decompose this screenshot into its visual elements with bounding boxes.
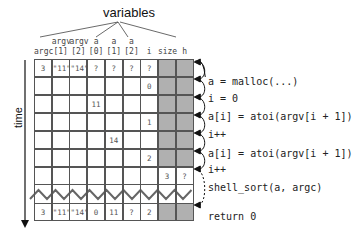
grid-cell: ?	[123, 59, 141, 77]
grid-cell	[105, 113, 123, 131]
grid-cell	[105, 167, 123, 185]
grid-cell	[34, 131, 52, 149]
statement-label: a[i] = atoi(argv[i + 1])	[208, 111, 353, 122]
grid-cell	[123, 131, 141, 149]
grid-cell	[158, 95, 176, 113]
grid-cell	[123, 113, 141, 131]
grid-cell	[158, 113, 176, 131]
grid-cell	[140, 95, 158, 113]
grid-cell: 1	[140, 113, 158, 131]
grid-cell: 0	[87, 203, 105, 221]
statement-label: i++	[208, 164, 226, 175]
grid-cell	[123, 95, 141, 113]
grid-gap	[52, 185, 70, 203]
grid-gap	[158, 185, 176, 203]
grid-gap	[123, 185, 141, 203]
grid-cell: 3	[34, 203, 52, 221]
grid-cell	[52, 77, 70, 95]
grid-cell	[158, 59, 176, 77]
grid-cell	[123, 77, 141, 95]
grid-cell: 3	[158, 167, 176, 185]
grid-cell: 2	[140, 149, 158, 167]
grid-gap	[105, 185, 123, 203]
column-header-top: a	[123, 37, 141, 46]
column-header-bottom: size	[158, 47, 176, 56]
grid-cell	[158, 77, 176, 95]
grid-cell	[69, 95, 87, 113]
grid-cell: ?	[87, 59, 105, 77]
grid-cell: "11"	[52, 203, 70, 221]
column-header-bottom: h	[176, 47, 194, 56]
grid-cell	[176, 149, 194, 167]
grid-cell	[52, 131, 70, 149]
column-header-top: argv	[69, 37, 87, 46]
column-header-top: argv	[52, 37, 70, 46]
grid-cell	[105, 95, 123, 113]
grid-cell	[176, 95, 194, 113]
grid-cell: 14	[105, 131, 123, 149]
grid-cell	[105, 149, 123, 167]
column-header-bottom: [2]	[123, 47, 141, 56]
column-header-top: a	[87, 37, 105, 46]
grid-cell	[69, 149, 87, 167]
grid-cell: ?	[105, 59, 123, 77]
grid-cell	[176, 77, 194, 95]
grid-cell	[158, 149, 176, 167]
grid-cell: 11	[105, 203, 123, 221]
grid-gap	[69, 185, 87, 203]
column-header-top: a	[105, 37, 123, 46]
column-header-bottom: argc	[34, 47, 52, 56]
grid-cell	[34, 77, 52, 95]
grid-cell	[176, 203, 194, 221]
grid-cell: "14"	[69, 203, 87, 221]
grid-cell	[176, 131, 194, 149]
grid-cell	[52, 95, 70, 113]
statement-label: a[i] = atoi(argv[i + 1])	[208, 148, 353, 159]
grid-cell	[176, 113, 194, 131]
grid-cell	[140, 167, 158, 185]
grid-cell	[140, 131, 158, 149]
grid-cell	[158, 203, 176, 221]
grid-cell	[34, 113, 52, 131]
time-axis-label: time	[12, 107, 24, 128]
grid-cell	[69, 113, 87, 131]
column-header-bottom: [0]	[87, 47, 105, 56]
grid-cell	[52, 113, 70, 131]
grid-cell	[87, 77, 105, 95]
statement-label: shell_sort(a, argc)	[208, 182, 322, 193]
grid-cell	[87, 149, 105, 167]
grid-cell	[69, 131, 87, 149]
statement-label: i++	[208, 129, 226, 140]
grid-cell: 11	[87, 95, 105, 113]
grid-cell: 0	[140, 77, 158, 95]
grid-cell	[105, 77, 123, 95]
statement-label: i = 0	[208, 93, 238, 104]
grid-gap	[176, 185, 194, 203]
column-header-bottom: [2]	[69, 47, 87, 56]
grid-cell	[34, 149, 52, 167]
grid-cell: "14"	[69, 59, 87, 77]
grid-gap	[34, 185, 52, 203]
column-header-bottom: [1]	[52, 47, 70, 56]
grid-cell	[52, 149, 70, 167]
grid-cell	[158, 131, 176, 149]
grid-cell	[69, 167, 87, 185]
grid-cell: ?	[123, 203, 141, 221]
grid-cell	[87, 113, 105, 131]
grid-cell	[69, 77, 87, 95]
grid-cell: 3	[34, 59, 52, 77]
grid-gap	[140, 185, 158, 203]
statement-label: return 0	[208, 211, 256, 222]
grid-cell	[87, 167, 105, 185]
grid-cell	[34, 167, 52, 185]
grid-cell: 2	[140, 203, 158, 221]
statement-label: a = malloc(...)	[208, 76, 298, 87]
grid-cell: "11"	[52, 59, 70, 77]
grid-cell	[52, 167, 70, 185]
grid-cell: ?	[140, 59, 158, 77]
column-header-bottom: [1]	[105, 47, 123, 56]
grid-gap	[87, 185, 105, 203]
grid-cell	[34, 95, 52, 113]
grid-cell: ?	[176, 167, 194, 185]
grid-cell	[176, 59, 194, 77]
